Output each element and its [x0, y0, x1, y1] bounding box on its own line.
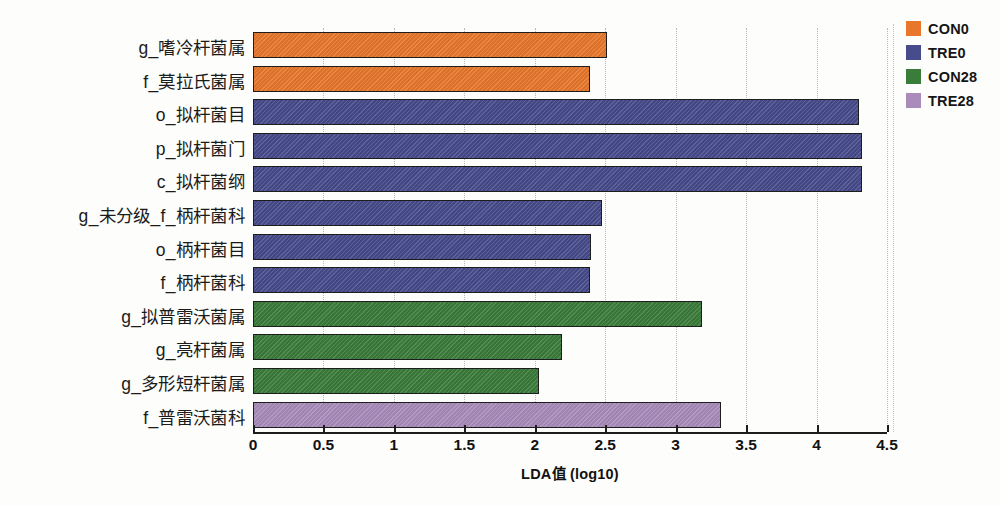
bar-CON28[interactable] [253, 301, 702, 327]
bar-texture [254, 369, 538, 393]
bar-TRE0[interactable] [253, 267, 590, 293]
x-axis-tick [746, 425, 748, 432]
bar-row[interactable] [253, 133, 887, 159]
lda-bar-chart-figure: g_嗜冷杆菌属f_莫拉氏菌属o_拟杆菌目p_拟杆菌门c_拟杆菌纲g_未分级_f_… [0, 0, 1000, 506]
bar-TRE0[interactable] [253, 133, 862, 159]
bar-CON28[interactable] [253, 368, 539, 394]
x-axis-tick [887, 425, 889, 432]
bar-texture [254, 67, 589, 91]
bar-texture [254, 201, 601, 225]
bar-TRE28[interactable] [253, 402, 721, 428]
y-axis-label: g_拟普雷沃菌属 [121, 303, 245, 328]
bar-texture [254, 134, 861, 158]
bar-TRE0[interactable] [253, 200, 602, 226]
x-axis-tick [253, 425, 255, 432]
y-axis-label: f_普雷沃菌科 [143, 404, 245, 429]
x-axis-tick [535, 425, 537, 432]
y-axis-label: g_多形短杆菌属 [121, 370, 245, 395]
bar-texture [254, 268, 589, 292]
legend-item-con28[interactable]: CON28 [906, 66, 998, 87]
legend-item-con0[interactable]: CON0 [906, 18, 998, 39]
legend-swatch [906, 21, 921, 36]
bar-row[interactable] [253, 402, 887, 428]
x-axis-tick [605, 425, 607, 432]
bar-texture [254, 33, 606, 57]
x-axis-tick-label: 4 [812, 436, 821, 454]
bar-texture [254, 335, 561, 359]
x-axis-tick-label: 3.5 [735, 436, 757, 454]
bar-row[interactable] [253, 200, 887, 226]
legend-item-tre0[interactable]: TRE0 [906, 42, 998, 63]
bar-texture [254, 167, 861, 191]
legend-label: CON0 [928, 21, 969, 37]
y-axis-label: f_柄杆菌科 [161, 269, 245, 294]
bar-row[interactable] [253, 301, 887, 327]
legend-swatch [906, 45, 921, 60]
x-axis-tick [394, 425, 396, 432]
y-axis-label: p_拟杆菌门 [156, 135, 245, 160]
legend-label: TRE28 [928, 93, 974, 109]
x-axis-line [253, 432, 887, 434]
x-axis-tick [676, 425, 678, 432]
y-axis-label: f_莫拉氏菌属 [143, 68, 245, 93]
bar-row[interactable] [253, 32, 887, 58]
x-axis-tick-label: 4.5 [876, 436, 898, 454]
x-axis-tick [817, 425, 819, 432]
bar-CON0[interactable] [253, 66, 590, 92]
bar-TRE0[interactable] [253, 166, 862, 192]
bar-row[interactable] [253, 234, 887, 260]
x-axis-tick-label: 1 [390, 436, 399, 454]
x-axis-title: LDA值 (log10) [253, 462, 887, 483]
bar-row[interactable] [253, 99, 887, 125]
x-axis-tick-label: 0.5 [313, 436, 335, 454]
x-axis-tick [464, 425, 466, 432]
bar-row[interactable] [253, 334, 887, 360]
x-axis: 00.511.522.533.544.5 [253, 432, 887, 433]
bar-row[interactable] [253, 166, 887, 192]
bar-texture [254, 403, 720, 427]
legend-label: CON28 [928, 69, 977, 85]
y-axis-label: o_柄杆菌目 [156, 236, 245, 261]
legend-swatch [906, 69, 921, 84]
legend: CON0TRE0CON28TRE28 [906, 18, 998, 114]
bar-row[interactable] [253, 368, 887, 394]
bar-CON28[interactable] [253, 334, 562, 360]
y-axis-label: o_拟杆菌目 [156, 101, 245, 126]
x-axis-tick-label: 0 [249, 436, 258, 454]
y-axis-label: c_拟杆菌纲 [157, 168, 245, 193]
bar-row[interactable] [253, 267, 887, 293]
legend-item-tre28[interactable]: TRE28 [906, 90, 998, 111]
bar-TRE0[interactable] [253, 234, 591, 260]
gridline [887, 28, 888, 432]
bar-TRE0[interactable] [253, 99, 859, 125]
x-axis-tick-label: 3 [671, 436, 680, 454]
legend-swatch [906, 93, 921, 108]
decorative-dotted-rule [893, 24, 894, 432]
y-axis-label-column: g_嗜冷杆菌属f_莫拉氏菌属o_拟杆菌目p_拟杆菌门c_拟杆菌纲g_未分级_f_… [0, 28, 245, 432]
bar-texture [254, 100, 858, 124]
y-axis-label: g_嗜冷杆菌属 [138, 34, 245, 59]
x-axis-tick-label: 2 [530, 436, 539, 454]
x-axis-tick-label: 2.5 [594, 436, 616, 454]
x-axis-tick [323, 425, 325, 432]
bar-texture [254, 302, 701, 326]
bar-row[interactable] [253, 66, 887, 92]
y-axis-label: g_未分级_f_柄杆菌科 [79, 202, 245, 227]
bar-texture [254, 235, 590, 259]
plot-area [253, 28, 887, 432]
legend-label: TRE0 [928, 45, 966, 61]
bar-CON0[interactable] [253, 32, 607, 58]
x-axis-tick-label: 1.5 [454, 436, 476, 454]
y-axis-label: g_亮杆菌属 [156, 336, 245, 361]
